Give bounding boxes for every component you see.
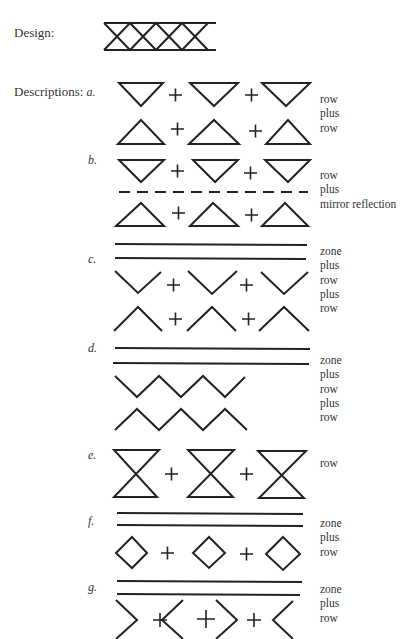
pattern-diagrams — [0, 0, 418, 639]
section-g-figure — [116, 581, 302, 639]
design-band-figure — [104, 23, 216, 50]
section-a-figure — [118, 83, 310, 144]
section-d-figure — [113, 348, 310, 430]
section-f-figure — [116, 513, 303, 570]
section-c-figure — [114, 244, 309, 331]
section-b-figure — [116, 160, 310, 226]
section-e-figure — [114, 450, 306, 498]
